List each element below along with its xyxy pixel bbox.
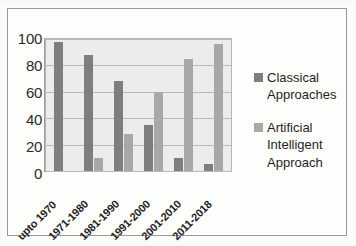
y-tick-label: 60: [26, 85, 42, 100]
bar-group: [108, 39, 138, 171]
y-tick-label: 80: [26, 58, 42, 73]
bar[interactable]: [114, 81, 123, 171]
bar[interactable]: [94, 158, 103, 171]
y-tick-label: 40: [26, 112, 42, 127]
bar-group: [78, 39, 108, 171]
chart-legend: Classical Approaches Artificial Intellig…: [254, 69, 348, 187]
y-tick-label: 20: [26, 139, 42, 154]
legend-swatch-icon: [254, 123, 263, 132]
bar[interactable]: [154, 92, 163, 171]
x-axis: upto 19701971-19801981-19901991-20002001…: [45, 173, 232, 235]
plot-area: [45, 38, 232, 172]
y-tick-label: 0: [34, 166, 42, 181]
legend-label-line: Intelligent: [267, 137, 323, 152]
bar-group: [169, 39, 199, 171]
legend-label-line: Approaches: [267, 87, 336, 102]
bar-group: [199, 39, 229, 171]
bars-layer: [46, 39, 231, 171]
bar[interactable]: [174, 158, 183, 171]
legend-label: Artificial Intelligent Approach: [267, 119, 323, 170]
legend-item-classical[interactable]: Classical Approaches: [254, 69, 348, 103]
chart-frame: 100 80 60 40 20 0 upto 19701971-19801981…: [7, 8, 347, 236]
legend-swatch-icon: [254, 73, 263, 82]
bar[interactable]: [204, 164, 213, 171]
bar[interactable]: [184, 59, 193, 171]
bar-group: [48, 39, 78, 171]
y-tick-label: 100: [18, 31, 42, 46]
bar[interactable]: [54, 42, 63, 171]
legend-label: Classical Approaches: [267, 69, 336, 103]
bar[interactable]: [144, 125, 153, 171]
bar[interactable]: [214, 44, 223, 171]
chart-screenshot: 100 80 60 40 20 0 upto 19701971-19801981…: [0, 0, 356, 246]
legend-label-line: Artificial: [267, 120, 313, 135]
legend-label-line: Approach: [267, 155, 323, 170]
bar[interactable]: [124, 134, 133, 171]
legend-item-artificial-intelligent[interactable]: Artificial Intelligent Approach: [254, 119, 348, 170]
y-axis: 100 80 60 40 20 0: [10, 31, 42, 179]
bar-group: [139, 39, 169, 171]
gridline: [46, 171, 231, 172]
bar[interactable]: [84, 55, 93, 171]
legend-label-line: Classical: [267, 70, 319, 85]
